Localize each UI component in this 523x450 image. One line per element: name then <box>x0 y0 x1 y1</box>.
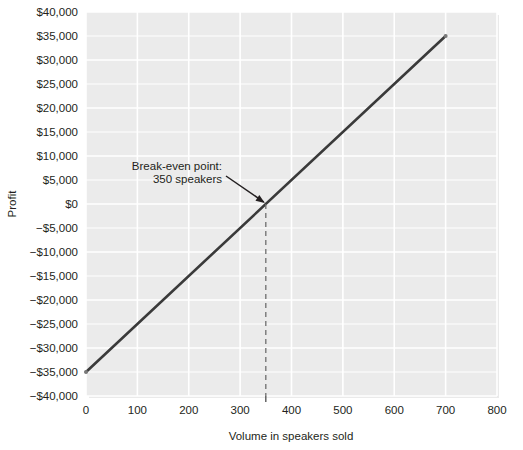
y-tick-label: −$35,000 <box>30 366 78 378</box>
y-axis-title: Profit <box>6 190 18 218</box>
x-tick-label: 200 <box>179 404 198 416</box>
y-tick-label: −$5,000 <box>36 222 78 234</box>
x-tick-label: 0 <box>83 404 89 416</box>
profit-volume-chart: $40,000$35,000$30,000$25,000$20,000$15,0… <box>0 0 523 450</box>
x-tick-label: 300 <box>231 404 250 416</box>
x-tick-label: 700 <box>436 404 455 416</box>
y-tick-label: −$25,000 <box>30 318 78 330</box>
x-tick-label: 600 <box>385 404 404 416</box>
y-tick-label: $35,000 <box>36 30 78 42</box>
series-endpoint-marker <box>84 370 88 374</box>
y-tick-label: $30,000 <box>36 54 78 66</box>
y-axis-tick-labels: $40,000$35,000$30,000$25,000$20,000$15,0… <box>30 6 78 402</box>
x-axis-title: Volume in speakers sold <box>229 430 354 442</box>
x-tick-label: 400 <box>282 404 301 416</box>
break-even-label-line2: 350 speakers <box>153 173 222 185</box>
y-tick-label: $5,000 <box>43 174 78 186</box>
y-tick-label: $25,000 <box>36 78 78 90</box>
x-axis-tick-labels: 0100200300400500600700800 <box>83 404 507 416</box>
x-tick-label: 500 <box>333 404 352 416</box>
x-tick-label: 100 <box>128 404 147 416</box>
y-tick-label: $40,000 <box>36 6 78 18</box>
y-tick-label: $0 <box>65 198 78 210</box>
series-endpoint-marker <box>444 34 448 38</box>
y-tick-label: −$15,000 <box>30 270 78 282</box>
y-tick-label: $15,000 <box>36 126 78 138</box>
y-tick-label: $20,000 <box>36 102 78 114</box>
y-tick-label: −$20,000 <box>30 294 78 306</box>
chart-figure: $40,000$35,000$30,000$25,000$20,000$15,0… <box>0 0 523 450</box>
y-tick-label: −$10,000 <box>30 246 78 258</box>
break-even-label-line1: Break-even point: <box>132 160 222 172</box>
y-tick-label: −$40,000 <box>30 390 78 402</box>
y-tick-label: $10,000 <box>36 150 78 162</box>
x-tick-label: 800 <box>487 404 506 416</box>
y-tick-label: −$30,000 <box>30 342 78 354</box>
